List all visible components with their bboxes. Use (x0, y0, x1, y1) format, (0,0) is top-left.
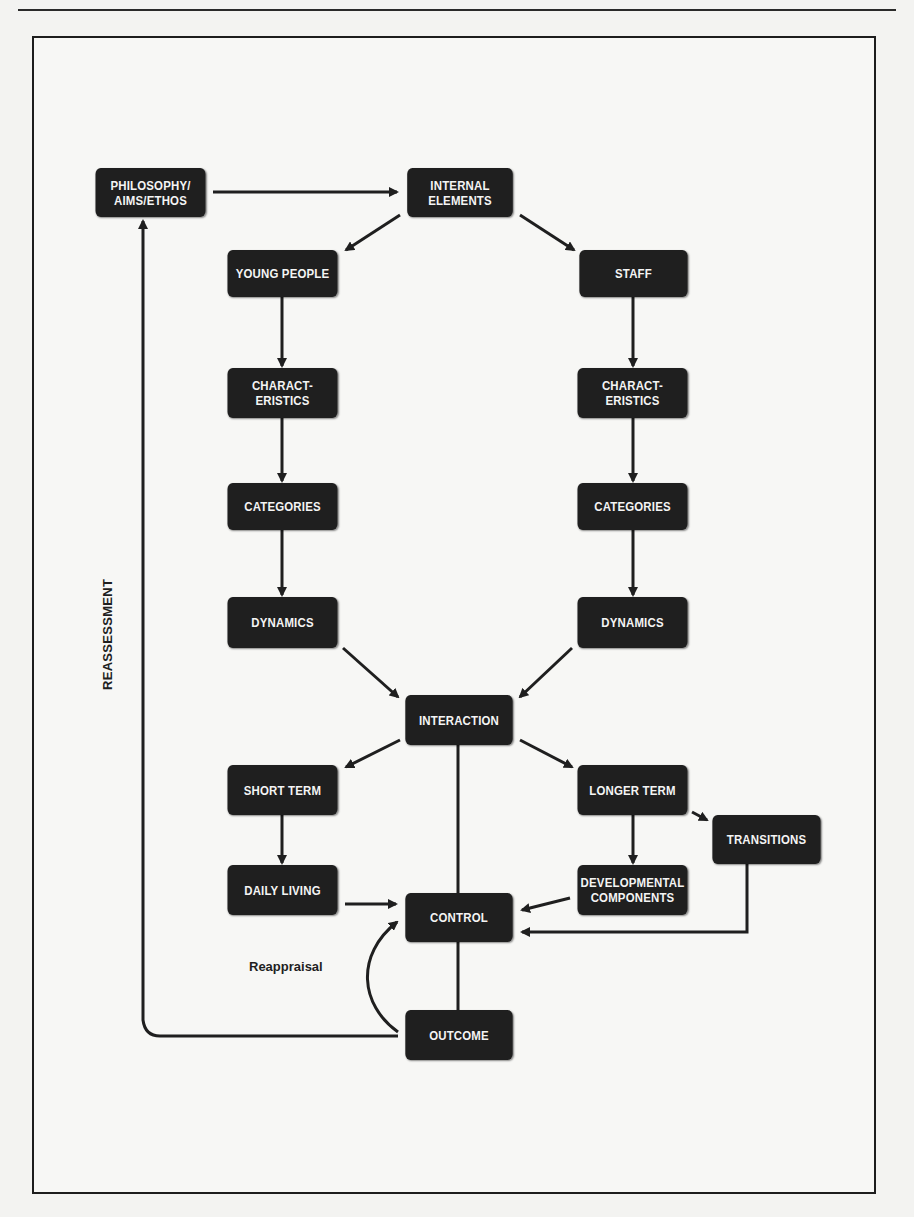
node-categories-left: CATEGORIES (228, 483, 338, 530)
node-categories-right: CATEGORIES (578, 483, 688, 530)
node-internal-elements: INTERNAL ELEMENTS (407, 168, 513, 217)
node-philosophy-aims-ethos: PHILOSOPHY/ AIMS/ETHOS (96, 168, 206, 217)
edge-dynamics-left-interaction (343, 648, 398, 697)
node-short-term: SHORT TERM (228, 765, 338, 815)
node-longer-term: LONGER TERM (578, 765, 688, 815)
node-young-people: YOUNG PEOPLE (228, 250, 338, 297)
edge-developmental-control (522, 898, 570, 910)
reappraisal-label: Reappraisal (249, 959, 323, 974)
edge-reappraisal (367, 922, 398, 1032)
node-characteristics-right: CHARACT- ERISTICS (578, 368, 688, 418)
node-outcome: OUTCOME (405, 1010, 512, 1060)
node-dynamics-left: DYNAMICS (228, 597, 338, 648)
edge-interaction-short-term (346, 740, 400, 767)
edge-dynamics-right-interaction (520, 648, 572, 697)
node-developmental-components: DEVELOPMENTAL COMPONENTS (578, 865, 688, 915)
node-dynamics-right: DYNAMICS (578, 597, 688, 648)
reassessment-label: REASSESSMENT (100, 579, 115, 690)
node-staff: STAFF (579, 250, 687, 297)
node-control: CONTROL (405, 893, 512, 942)
node-characteristics-left: CHARACT- ERISTICS (228, 368, 338, 418)
node-daily-living: DAILY LIVING (228, 865, 338, 915)
node-transitions: TRANSITIONS (712, 815, 820, 864)
edge-internal-staff (520, 215, 574, 250)
edge-internal-young-people (346, 215, 400, 250)
node-interaction: INTERACTION (405, 695, 512, 745)
edge-interaction-longer-term (520, 740, 572, 767)
edge-longer-term-transitions (692, 812, 707, 820)
